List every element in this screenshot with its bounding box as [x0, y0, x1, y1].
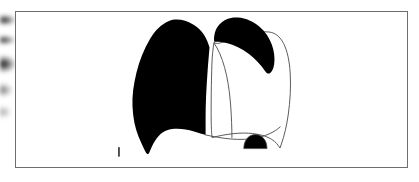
figure-page: [0, 0, 419, 182]
figure-frame-border: [15, 11, 408, 168]
